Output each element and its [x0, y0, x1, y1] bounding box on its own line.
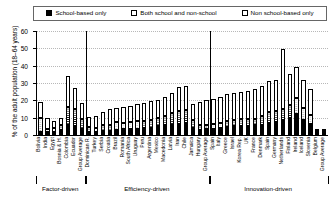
entrepreneurship-training-chart: School-based only Both school and non-sc…: [0, 0, 334, 208]
stacked-bar[interactable]: [101, 112, 105, 135]
bar-segment-non-school-based-only: [52, 121, 56, 128]
bar-segment-non-school-based-only: [211, 99, 215, 124]
stacked-bar[interactable]: [204, 100, 208, 135]
bar-slot: [134, 31, 141, 135]
stacked-bar[interactable]: [211, 99, 215, 135]
x-axis-label: Colombia: [65, 137, 70, 159]
x-axis-label-slot: Dominican R.: [84, 136, 91, 176]
bar-segment-school-based-only: [301, 120, 305, 135]
bar-slot: [252, 31, 259, 135]
bar-segment-school-based-only: [87, 132, 91, 135]
bar-segment-school-based-only: [225, 127, 229, 135]
bar-segment-both-school-and-non-school: [274, 111, 278, 122]
stacked-bar[interactable]: [246, 91, 250, 135]
stacked-bar[interactable]: [163, 97, 167, 135]
x-axis-label: Finland: [286, 137, 291, 154]
bar-segment-non-school-based-only: [156, 100, 160, 117]
group-separator: [86, 31, 87, 135]
stacked-bar[interactable]: [94, 116, 98, 135]
x-axis-label: Group Average: [203, 137, 208, 171]
stacked-bar[interactable]: [177, 87, 181, 135]
stacked-bar[interactable]: [45, 118, 49, 135]
stacked-bar[interactable]: [184, 86, 188, 135]
stacked-bar[interactable]: [114, 108, 118, 135]
bar-slot: [307, 31, 314, 135]
bar-segment-school-based-only: [101, 131, 105, 135]
stacked-bar[interactable]: [322, 129, 326, 135]
stacked-bar[interactable]: [156, 100, 160, 135]
stacked-bar[interactable]: [218, 97, 222, 135]
x-axis-label: Argentina: [148, 137, 153, 159]
stacked-bar[interactable]: [191, 104, 195, 135]
y-axis-tick-label: 40: [21, 63, 28, 70]
bar-segment-non-school-based-only: [73, 88, 77, 109]
stacked-bar[interactable]: [87, 117, 91, 135]
bar-segment-both-school-and-non-school: [170, 113, 174, 124]
bar-segment-non-school-based-only: [142, 103, 146, 121]
stacked-bar[interactable]: [59, 118, 63, 135]
stacked-bar[interactable]: [308, 89, 312, 135]
stacked-bar[interactable]: [239, 92, 243, 135]
group-label: Efficiency-driven: [85, 185, 210, 192]
x-axis-label-slot: France: [251, 136, 258, 176]
bar-segment-non-school-based-only: [128, 106, 132, 122]
bar-slot: [162, 31, 169, 135]
bar-slot: [314, 31, 321, 135]
stacked-bar[interactable]: [294, 67, 298, 135]
bar-segment-both-school-and-non-school: [308, 115, 312, 124]
x-axis-label: UK: [245, 137, 250, 144]
stacked-bar[interactable]: [121, 107, 125, 135]
stacked-bar[interactable]: [170, 93, 174, 135]
bar-segment-school-based-only: [218, 128, 222, 135]
stacked-bar[interactable]: [253, 89, 257, 135]
stacked-bar[interactable]: [52, 121, 56, 135]
bar-segment-non-school-based-only: [225, 94, 229, 121]
stacked-bar[interactable]: [108, 109, 112, 135]
bar-segment-school-based-only: [66, 125, 70, 135]
stacked-bar[interactable]: [315, 129, 319, 135]
bar-segment-school-based-only: [322, 133, 326, 135]
bar-segment-non-school-based-only: [204, 100, 208, 124]
stacked-bar[interactable]: [274, 80, 278, 135]
bar-segment-both-school-and-non-school: [163, 116, 167, 126]
stacked-bar[interactable]: [135, 104, 139, 135]
bar-segment-non-school-based-only: [108, 109, 112, 125]
bar-series-container: [37, 31, 328, 135]
stacked-bar[interactable]: [38, 102, 42, 135]
bar-segment-non-school-based-only: [38, 102, 42, 118]
x-axis-label-slot: Netherlands: [278, 136, 285, 176]
open-square-icon: [242, 10, 248, 16]
x-axis-label-slot: Chile: [181, 136, 188, 176]
stacked-bar[interactable]: [232, 93, 236, 135]
bar-segment-both-school-and-non-school: [281, 109, 285, 120]
bar-slot: [265, 31, 272, 135]
legend-label: School-based only: [55, 10, 106, 16]
stacked-bar[interactable]: [73, 88, 77, 135]
bar-segment-school-based-only: [246, 126, 250, 135]
stacked-bar[interactable]: [198, 102, 202, 135]
bar-segment-school-based-only: [288, 118, 292, 135]
stacked-bar[interactable]: [288, 74, 292, 135]
bar-slot: [99, 31, 106, 135]
x-axis-label-slot: Turkey: [91, 136, 98, 176]
stacked-bar[interactable]: [128, 106, 132, 135]
stacked-bar[interactable]: [66, 76, 70, 135]
bar-segment-non-school-based-only: [288, 74, 292, 104]
stacked-bar[interactable]: [149, 101, 153, 135]
bar-segment-non-school-based-only: [170, 93, 174, 114]
bar-slot: [58, 31, 65, 135]
bar-segment-school-based-only: [80, 129, 84, 135]
stacked-bar[interactable]: [267, 81, 271, 135]
bar-segment-both-school-and-non-school: [38, 118, 42, 132]
bar-segment-non-school-based-only: [177, 87, 181, 110]
stacked-bar[interactable]: [260, 86, 264, 135]
bar-segment-school-based-only: [94, 132, 98, 135]
stacked-bar[interactable]: [225, 94, 229, 135]
stacked-bar[interactable]: [301, 80, 305, 135]
y-axis-tick-label: 20: [21, 98, 28, 105]
stacked-bar[interactable]: [281, 49, 285, 135]
stacked-bar[interactable]: [142, 103, 146, 135]
x-axis-label: Denmark: [258, 137, 263, 158]
bar-segment-non-school-based-only: [218, 97, 222, 123]
stacked-bar[interactable]: [80, 103, 84, 135]
